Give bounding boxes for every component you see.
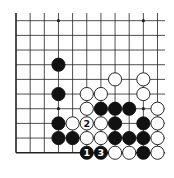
white-stone [94,117,107,130]
white-stone [108,146,121,159]
white-stone [151,117,164,130]
move-number: 2 [83,118,90,129]
move-number: 1 [83,147,90,158]
black-stone [123,102,136,115]
white-stone [137,87,150,100]
white-stone [151,131,164,144]
star-point [57,19,60,22]
white-stone [123,146,136,159]
white-stone [80,131,93,144]
black-stone [52,131,65,144]
black-stone [137,146,150,159]
white-stone [151,102,164,115]
black-stone [108,117,121,130]
white-stone: 2 [80,117,93,130]
black-stone: 1 [80,146,93,159]
star-point [57,107,60,110]
black-stone [52,87,65,100]
black-stone [94,102,107,115]
black-stone [137,131,150,144]
star-point [142,107,145,110]
white-stone [137,73,150,86]
white-stone [94,131,107,144]
white-stone [94,87,107,100]
star-point [142,19,145,22]
white-stone [108,73,121,86]
white-stone [151,146,164,159]
black-stone [108,102,121,115]
black-stone [108,131,121,144]
go-board: 213 [0,0,174,178]
black-stone [137,117,150,130]
black-stone: 3 [94,146,107,159]
black-stone [66,131,79,144]
black-stone [52,58,65,71]
white-stone [80,87,93,100]
black-stone [52,117,65,130]
white-stone [66,117,79,130]
black-stone [123,131,136,144]
white-stone [80,102,93,115]
move-number: 3 [98,147,105,158]
